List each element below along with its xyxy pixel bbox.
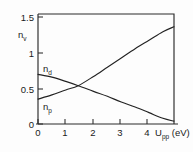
curve-n-p [38,27,174,99]
plot-frame [38,14,174,124]
curve-label-n-d-sub: d [48,69,52,76]
y-tick-label-4: 0 [29,119,34,130]
chart-figure: 1.5 1 0.5 0 nv 0 1 2 3 4 Upp (eV) [0,0,193,152]
x-axis-label: Upp (eV) [155,127,190,141]
y-axis-label-sub: v [23,35,27,42]
y-tick-label-3: 0.5 [21,84,34,95]
svg-text:Upp (eV): Upp (eV) [155,127,190,141]
x-tick-label-3: 3 [117,127,122,138]
x-tick-label-1: 1 [62,127,67,138]
x-tick-label-2: 2 [90,127,95,138]
plot-area: 1.5 1 0.5 0 nv 0 1 2 3 4 Upp (eV) [0,0,193,152]
curve-label-n-p-sub: p [48,107,52,115]
curve-label-n-d: nd [43,63,52,76]
curve-n-d [38,74,174,121]
x-axis-label-unit: (eV) [172,127,190,138]
x-tick-label-0: 0 [35,127,40,138]
x-axis-ticks [38,119,147,124]
x-tick-label-4: 4 [144,127,149,138]
curve-label-n-p: np [43,101,52,115]
svg-text:nv: nv [18,29,27,42]
y-tick-label-2: 1 [29,48,34,59]
y-axis-label: nv [18,29,27,42]
y-tick-label-1: 1.5 [21,12,34,23]
